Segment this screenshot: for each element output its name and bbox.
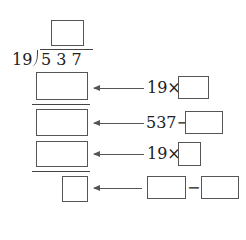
step-3-box[interactable]	[36, 141, 88, 167]
step-3-hint-box[interactable]	[178, 142, 201, 166]
step-4-hint-operator: −	[187, 180, 200, 196]
quotient-box[interactable]	[51, 20, 84, 46]
step-1-arrow-icon	[94, 88, 144, 89]
step-4-arrow-icon	[94, 188, 142, 189]
step-2-arrow-icon	[94, 123, 144, 124]
step-1-box[interactable]	[36, 72, 88, 100]
dividend: 5 3 7	[41, 52, 82, 68]
step-2-hint-box[interactable]	[185, 111, 223, 134]
division-bracket	[32, 50, 38, 66]
step-2-box[interactable]	[36, 109, 88, 136]
remainder-box[interactable]	[62, 176, 88, 202]
step-4-hint-box-b[interactable]	[201, 176, 239, 199]
subtraction-line-1	[32, 104, 90, 105]
step-3-arrow-icon	[94, 154, 144, 155]
step-3-hint-prefix: 19×	[147, 146, 181, 162]
divisor: 19	[12, 52, 32, 68]
step-2-hint-prefix: 537−	[146, 115, 190, 131]
step-1-hint-box[interactable]	[178, 76, 209, 99]
subtraction-line-2	[32, 171, 90, 172]
step-1-hint-prefix: 19×	[147, 80, 181, 96]
step-4-hint-box-a[interactable]	[147, 176, 186, 199]
